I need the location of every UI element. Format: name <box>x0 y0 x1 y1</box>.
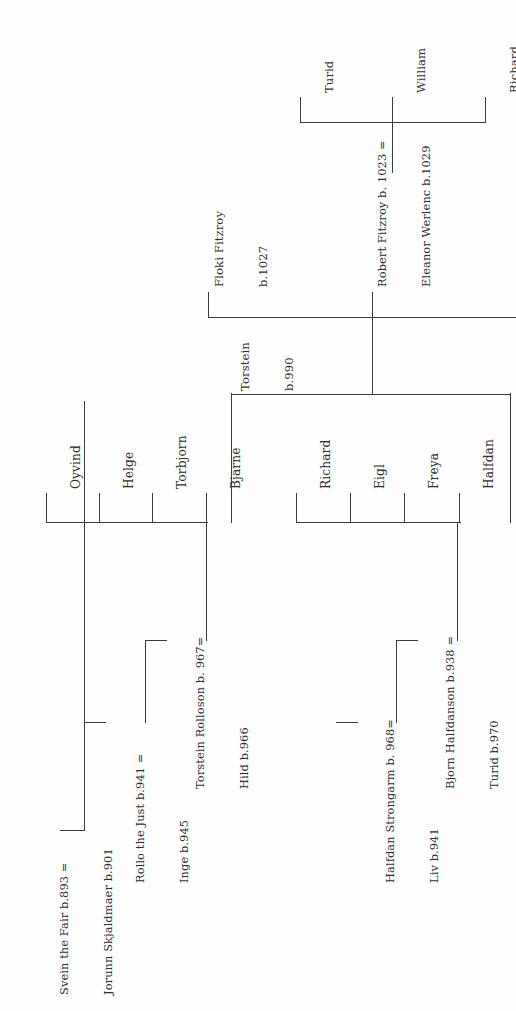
child-drop-floki <box>208 292 209 318</box>
child-turid-g7: Turid <box>292 23 366 93</box>
person-sigrid-992: Sigrid b.992 <box>487 311 516 391</box>
child-drop-oyvind <box>46 493 47 523</box>
couple-svein-jorunn-line1: Svein the Fair b.893 = <box>57 785 72 995</box>
child-drop-freya <box>404 493 405 523</box>
sibling-bar-torstein-hild <box>46 522 208 523</box>
descent-bar-rollo-inge <box>145 641 146 723</box>
child-helge-label: Helge <box>122 419 138 489</box>
marriage-tick-halfdan-liv <box>336 722 358 723</box>
couple-bjorn-turid: Bjorn Halfdanson b.938 = Turid b.970 <box>414 569 516 789</box>
descent-bar-to-torstein990 <box>231 393 232 523</box>
family-tree-canvas: Svein the Fair b.893 = Jorunn Skjaldmaer… <box>0 0 516 1011</box>
child-drop-richard-g7 <box>485 97 486 123</box>
couple-torstein-hild-line2: Hild b.966 <box>237 589 252 789</box>
child-drop-william <box>392 97 393 123</box>
child-drop-richard-g4 <box>296 493 297 523</box>
sibling-bar-robert-eleanor <box>300 122 486 123</box>
person-floki-fitzroy-name: Floki Fitzroy <box>212 177 227 287</box>
child-drop-halfdan <box>459 493 460 523</box>
descent-bar-robert-eleanor <box>392 121 393 173</box>
marriage-tick-rollo-inge <box>84 722 106 723</box>
child-drop-eigl <box>350 493 351 523</box>
child-richard-g4-label: Richard <box>319 409 335 489</box>
couple-robert-eleanor: Robert Fitzroy b. 1023 = Eleanor Werlenc… <box>346 67 463 287</box>
couple-robert-eleanor-line1: Robert Fitzroy b. 1023 = <box>375 67 390 287</box>
child-william: William <box>384 13 458 93</box>
child-drop-torbjorn <box>152 493 153 523</box>
child-oyvind: Oyvind <box>38 411 116 489</box>
couple-bjorn-turid-line1: Bjorn Halfdanson b.938 = <box>443 569 458 789</box>
child-richard-g7: Richard <box>477 13 516 93</box>
child-halfdan-label: Halfdan <box>482 409 498 489</box>
sibling-spine-torstein-hild <box>206 523 207 641</box>
child-turid-g7-label: Turid <box>322 23 337 93</box>
marriage-bar-torstein-sigrid <box>231 394 511 395</box>
marriage-tick-svein-jorunn <box>60 830 84 831</box>
marriage-tick-bjorn-turid <box>396 640 418 641</box>
marriage-tick-torstein-hild <box>145 640 167 641</box>
sibling-bar-bjorn-turid <box>296 522 461 523</box>
child-drop-robert <box>372 292 373 318</box>
person-floki-fitzroy-birth: b.1027 <box>256 177 271 287</box>
person-torstein-990-birth: b.990 <box>282 311 297 391</box>
child-drop-bjarne <box>206 493 207 523</box>
child-torbjorn-label: Torbjorn <box>175 409 191 489</box>
couple-bjorn-turid-line2: Turid b.970 <box>487 569 502 789</box>
descent-bar-torstein-sigrid <box>372 317 373 395</box>
child-freya-label: Freya <box>427 419 443 489</box>
child-drop-helge <box>99 493 100 523</box>
person-floki-fitzroy: Floki Fitzroy b.1027 <box>182 177 301 287</box>
child-william-label: William <box>414 13 429 93</box>
descent-bar-halfdan-liv <box>396 641 397 723</box>
person-torstein-990: Torstein b.990 <box>208 311 327 391</box>
child-richard-g4: Richard <box>288 409 366 489</box>
couple-torstein-hild: Torstein Rolloson b. 967= Hild b.966 <box>164 589 281 789</box>
child-eigl-label: Eigl <box>373 429 389 489</box>
child-oyvind-label: Oyvind <box>69 411 85 489</box>
sibling-spine-bjorn-turid <box>457 523 458 641</box>
child-richard-g7-label: Richard <box>507 13 516 93</box>
couple-robert-eleanor-line2: Eleanor Werlenc b.1029 <box>419 67 434 287</box>
person-torstein-990-name: Torstein <box>238 311 253 391</box>
sibling-bar-torstein-sigrid <box>208 317 516 318</box>
child-drop-turid-g7 <box>300 97 301 123</box>
descent-bar-to-sigrid992 <box>510 393 511 523</box>
